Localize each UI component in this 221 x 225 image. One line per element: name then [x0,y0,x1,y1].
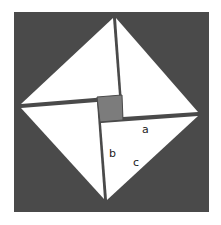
pythagorean-diagram: a b c [0,0,221,225]
label-c: c [133,156,139,169]
inner-square [97,95,123,122]
diagram-svg: a b c [0,0,221,225]
label-b: b [109,147,116,160]
label-a: a [142,123,149,136]
